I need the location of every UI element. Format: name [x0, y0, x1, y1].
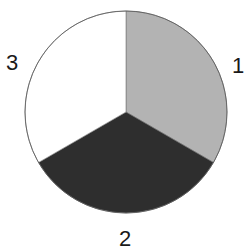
pie-slices — [25, 11, 227, 213]
slice-label-2: 2 — [119, 226, 131, 251]
slice-label-3: 3 — [6, 50, 18, 75]
slice-label-1: 1 — [232, 53, 244, 78]
pie-chart: 1 2 3 — [0, 0, 247, 252]
